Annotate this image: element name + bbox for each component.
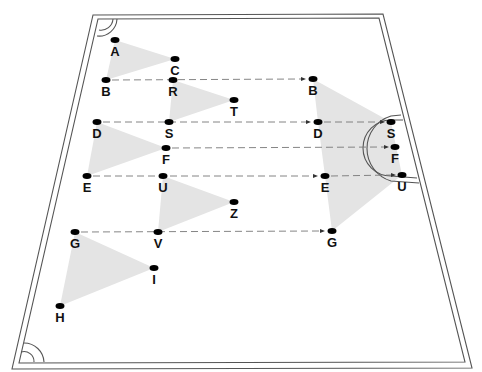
player-dot-icon: [159, 173, 168, 179]
player-u2: U: [397, 172, 406, 194]
corner-arc-bottom-left: [21, 352, 34, 362]
player-dot-icon: [162, 145, 171, 151]
player-f2: F: [391, 144, 400, 166]
player-g: G: [70, 229, 80, 251]
player-label: F: [162, 152, 170, 167]
player-dot-icon: [309, 76, 318, 82]
player-u: U: [158, 173, 167, 195]
player-label: S: [387, 126, 396, 141]
zone-rts: [169, 80, 234, 122]
player-dot-icon: [165, 119, 174, 125]
player-label: C: [170, 63, 180, 78]
player-label: E: [83, 180, 92, 195]
pass-d-d2: [103, 120, 311, 124]
player-label: T: [230, 104, 238, 119]
player-label: I: [152, 272, 156, 287]
player-label: R: [168, 84, 178, 99]
player-dot-icon: [111, 37, 120, 43]
player-s: S: [165, 119, 174, 141]
player-d: D: [92, 119, 101, 141]
corner-arc-top-left: [99, 19, 113, 30]
arrowhead-icon: [313, 174, 318, 178]
player-label: H: [55, 310, 64, 325]
player-z: Z: [230, 199, 239, 221]
player-d2: D: [313, 119, 322, 141]
player-label: B: [101, 84, 110, 99]
player-dot-icon: [71, 229, 80, 235]
player-label: G: [70, 236, 80, 251]
player-dot-icon: [83, 173, 92, 179]
player-label: U: [397, 179, 406, 194]
player-dot-icon: [230, 97, 239, 103]
pass-e-e2: [93, 174, 318, 178]
player-dot-icon: [56, 303, 65, 309]
player-label: E: [321, 180, 330, 195]
player-label: S: [165, 126, 174, 141]
player-dot-icon: [314, 119, 323, 125]
player-r: R: [168, 77, 178, 99]
player-label: B: [308, 83, 317, 98]
zone-uzv: [158, 176, 234, 232]
player-dot-icon: [154, 229, 163, 235]
arrowhead-icon: [301, 77, 306, 81]
player-e: E: [83, 173, 92, 195]
player-dot-icon: [328, 228, 337, 234]
player-t: T: [230, 97, 239, 119]
player-dot-icon: [171, 56, 180, 62]
player-b2: B: [308, 76, 317, 98]
player-e2: E: [321, 173, 330, 195]
pass-b-b2: [112, 77, 306, 81]
player-v: V: [154, 229, 163, 251]
player-g2: G: [327, 228, 337, 250]
player-c: C: [170, 56, 180, 78]
player-dot-icon: [102, 77, 111, 83]
player-label: D: [313, 126, 322, 141]
player-dot-icon: [391, 144, 400, 150]
player-label: V: [154, 236, 163, 251]
drill-diagram: ACBRTBDSDSFFEUEUZGVGIH: [0, 0, 482, 372]
player-f: F: [162, 145, 171, 167]
player-dot-icon: [398, 172, 407, 178]
arrowhead-icon: [306, 120, 311, 124]
player-label: G: [327, 235, 337, 250]
corner-arc-top-left-outer: [97, 19, 117, 36]
player-label: Z: [230, 206, 238, 221]
player-dot-icon: [93, 119, 102, 125]
player-a: A: [110, 37, 120, 59]
arrowhead-icon: [320, 229, 325, 233]
player-dot-icon: [230, 199, 239, 205]
player-label: F: [391, 151, 399, 166]
player-dot-icon: [387, 119, 396, 125]
shaded-zones: [60, 40, 402, 306]
player-label: A: [110, 44, 120, 59]
player-dot-icon: [150, 265, 159, 271]
player-label: U: [158, 180, 167, 195]
player-label: D: [92, 126, 101, 141]
player-dot-icon: [169, 77, 178, 83]
pass-g-g2: [81, 229, 325, 233]
player-s2: S: [387, 119, 396, 141]
player-i: I: [150, 265, 159, 287]
zone-big: [313, 79, 402, 231]
player-b: B: [101, 77, 110, 99]
player-h: H: [55, 303, 64, 325]
player-dot-icon: [321, 173, 330, 179]
